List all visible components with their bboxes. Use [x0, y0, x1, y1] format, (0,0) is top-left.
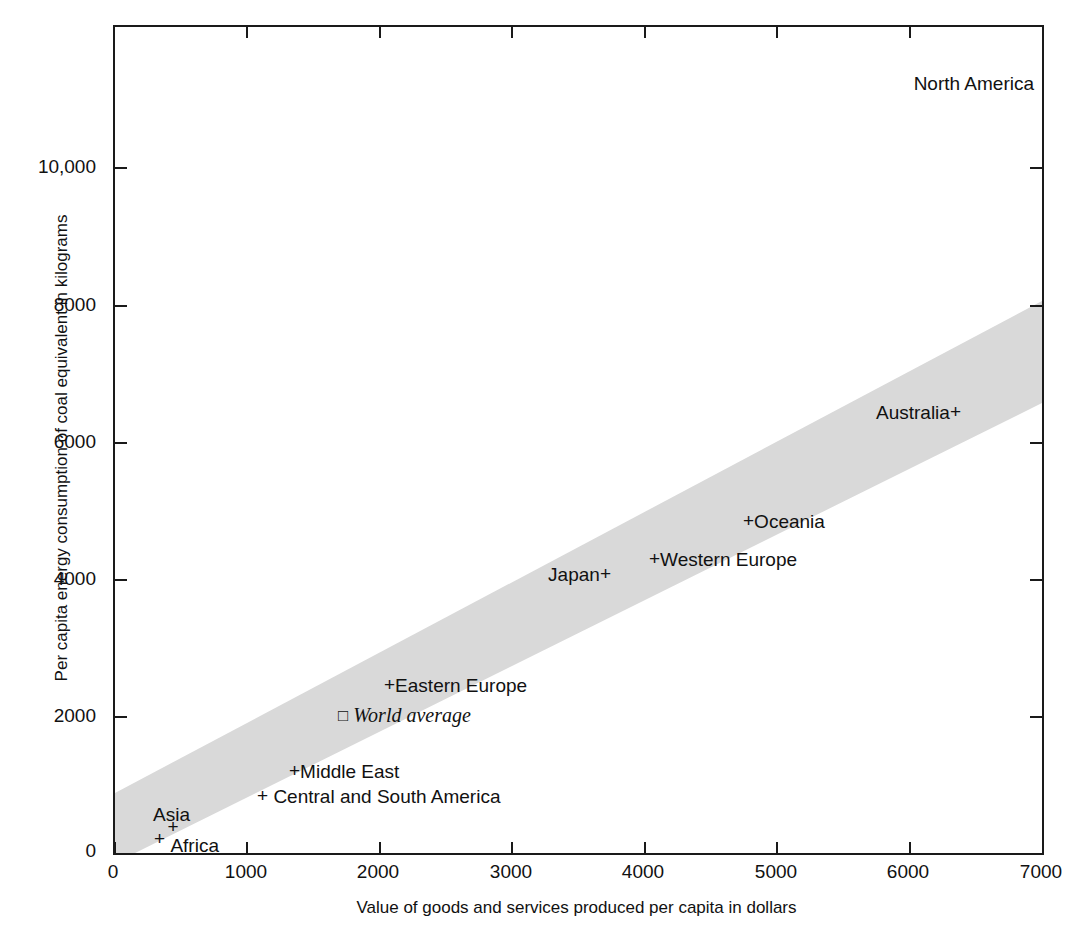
y-tick-4000: [113, 579, 127, 581]
data-point-world-average: □ World average: [338, 705, 471, 725]
data-label-australia: Australia: [876, 402, 950, 423]
x-tick-5000: [776, 842, 778, 855]
y-tick-right-8000: [1030, 305, 1044, 307]
y-tick-label-8000: 8000: [0, 294, 96, 316]
plus-marker-oceania: +: [743, 510, 754, 531]
data-point-japan: Japan+: [548, 564, 611, 584]
plus-marker-central-south-america: +: [257, 785, 268, 806]
y-tick-right-2000: [1030, 716, 1044, 718]
plus-marker-australia: +: [950, 401, 961, 422]
correlation-band: [115, 27, 1042, 853]
data-label-western-europe: Western Europe: [660, 549, 797, 570]
plus-marker-africa: +: [154, 828, 165, 849]
data-label-world-average: World average: [353, 704, 471, 726]
x-tick-top-6000: [909, 25, 911, 38]
y-tick-label-0: 0: [0, 840, 96, 862]
y-tick-10000: [113, 167, 127, 169]
x-tick-label-5000: 5000: [755, 861, 797, 883]
x-tick-top-5000: [776, 25, 778, 38]
square-marker-world-average: □: [338, 706, 348, 725]
x-tick-0: [114, 842, 116, 855]
y-tick-right-4000: [1030, 579, 1044, 581]
data-label-oceania: Oceania: [754, 511, 825, 532]
data-point-eastern-europe: +Eastern Europe: [384, 675, 527, 695]
x-tick-label-4000: 4000: [622, 861, 664, 883]
x-tick-label-6000: 6000: [887, 861, 929, 883]
x-tick-top-4000: [644, 25, 646, 38]
data-label-japan: Japan: [548, 564, 600, 585]
data-point-middle-east: +Middle East: [289, 761, 399, 781]
data-point-africa: + Africa: [154, 829, 219, 849]
y-tick-label-10000: 10,000: [0, 156, 96, 178]
x-tick-label-1000: 1000: [225, 861, 267, 883]
x-tick-6000: [909, 842, 911, 855]
x-tick-top-1000: [246, 25, 248, 38]
plus-marker-eastern-europe: +: [384, 674, 395, 695]
chart-figure: Per capita energy consumption of coal eq…: [0, 0, 1074, 936]
y-tick-label-4000: 4000: [0, 568, 96, 590]
x-tick-top-2000: [379, 25, 381, 38]
data-point-north-america: North America: [914, 74, 1034, 93]
x-axis-title: Value of goods and services produced per…: [113, 898, 1040, 918]
y-tick-right-10000: [1030, 167, 1044, 169]
x-tick-top-3000: [511, 25, 513, 38]
data-point-western-europe: +Western Europe: [649, 549, 797, 569]
plus-marker-middle-east: +: [289, 760, 300, 781]
data-point-australia: Australia+: [876, 402, 961, 422]
plus-marker-western-europe: +: [649, 548, 660, 569]
data-label-africa: Africa: [170, 835, 219, 856]
x-tick-3000: [511, 842, 513, 855]
x-tick-label-7000: 7000: [1020, 861, 1062, 883]
x-tick-4000: [644, 842, 646, 855]
x-tick-label-3000: 3000: [490, 861, 532, 883]
data-label-central-south-america: Central and South America: [273, 786, 500, 807]
plot-area: [115, 27, 1042, 853]
y-tick-8000: [113, 305, 127, 307]
data-point-central-south-america: + Central and South America: [257, 786, 500, 806]
y-tick-label-6000: 6000: [0, 431, 96, 453]
data-label-eastern-europe: Eastern Europe: [395, 675, 527, 696]
data-label-north-america: North America: [914, 73, 1034, 94]
x-tick-label-0: 0: [108, 861, 119, 883]
x-tick-1000: [246, 842, 248, 855]
data-label-middle-east: Middle East: [300, 761, 399, 782]
y-tick-2000: [113, 716, 127, 718]
y-tick-label-2000: 2000: [0, 705, 96, 727]
x-tick-label-2000: 2000: [357, 861, 399, 883]
plus-marker-japan: +: [600, 563, 611, 584]
y-tick-right-6000: [1030, 442, 1044, 444]
y-tick-6000: [113, 442, 127, 444]
x-tick-2000: [379, 842, 381, 855]
plot-frame: North America Australia+ +Oceania +Weste…: [113, 25, 1044, 855]
data-point-oceania: +Oceania: [743, 511, 825, 531]
